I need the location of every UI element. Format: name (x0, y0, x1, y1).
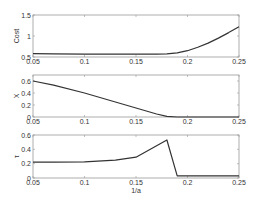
y-tick-label: 1 (27, 33, 31, 40)
x-tick-label: 0.2 (183, 179, 193, 186)
x-tick-label: 0.2 (183, 118, 193, 125)
axes-box (33, 135, 239, 178)
x-tick-label: 0.15 (129, 179, 143, 186)
y-axis-label: X (13, 93, 20, 98)
tau-panel: 0.050.10.150.20.2500.20.40.6τ1/a (13, 132, 246, 195)
y-tick-label: 0.4 (21, 146, 31, 153)
x-panel: 0.050.10.150.20.2500.20.40.6X (13, 75, 246, 125)
y-tick-label: 0.2 (21, 160, 31, 167)
x-tick-label: 0.25 (232, 179, 246, 186)
x-tick-label: 0.1 (80, 58, 90, 65)
x-tick-label: 0.25 (232, 118, 246, 125)
axes-box (33, 15, 239, 57)
x-axis-label: 1/a (131, 187, 141, 194)
axes-box (33, 75, 239, 117)
series-line-cost (33, 27, 239, 54)
x-tick-label: 0.15 (129, 118, 143, 125)
x-tick-label: 0.25 (232, 58, 246, 65)
y-axis-label: Cost (13, 29, 20, 43)
y-axis-label: τ (13, 155, 20, 158)
x-tick-label: 0.15 (129, 58, 143, 65)
x-tick-label: 0.1 (80, 179, 90, 186)
y-tick-label: 0.6 (21, 132, 31, 139)
x-tick-label: 0.2 (183, 58, 193, 65)
x-tick-label: 0.1 (80, 118, 90, 125)
y-tick-label: 1.5 (21, 12, 31, 19)
series-line-x (33, 81, 239, 117)
y-tick-label: 0.4 (21, 90, 31, 97)
chart-figure: 0.050.10.150.20.250.511.5Cost0.050.10.15… (0, 0, 257, 203)
y-tick-label: 0.6 (21, 78, 31, 85)
y-tick-label: 0 (27, 114, 31, 121)
y-tick-label: 0 (27, 175, 31, 182)
series-line-tau (33, 140, 239, 176)
cost-panel: 0.050.10.150.20.250.511.5Cost (13, 12, 246, 66)
y-tick-label: 0.5 (21, 54, 31, 61)
y-tick-label: 0.2 (21, 102, 31, 109)
